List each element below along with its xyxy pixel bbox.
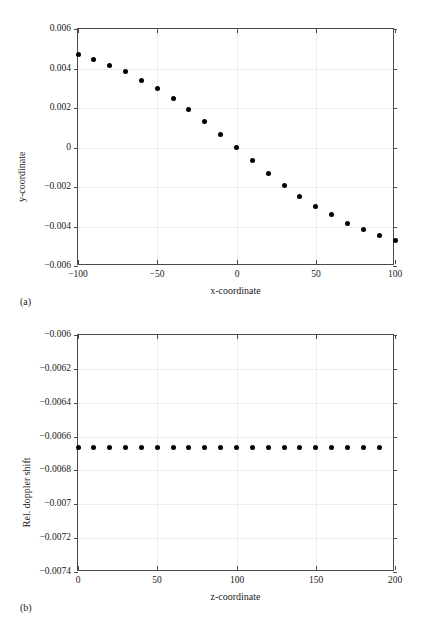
x-tick-label: 150 [309, 576, 323, 586]
y-tick-right [393, 227, 397, 228]
x-tick-bottom [316, 260, 317, 264]
y-tick-label: −0.0066 [40, 432, 71, 442]
y-tick-label: 0 [66, 143, 71, 153]
x-tick-label: −100 [68, 270, 88, 280]
gridline-horizontal [78, 187, 393, 188]
panel-caption-a: (a) [20, 296, 31, 307]
y-tick-left [74, 69, 78, 70]
gridline-vertical [157, 335, 158, 570]
y-tick-left [74, 437, 78, 438]
gridline-horizontal [78, 403, 393, 404]
y-tick-left [74, 470, 78, 471]
x-tick-bottom [237, 260, 238, 264]
y-tick-label: 0.006 [50, 24, 71, 34]
y-tick-left [74, 108, 78, 109]
data-point [361, 445, 366, 450]
y-tick-right [393, 69, 397, 70]
y-tick-label: −0.0062 [40, 364, 71, 374]
y-tick-left [74, 403, 78, 404]
data-point [139, 78, 144, 83]
x-tick-bottom [78, 260, 79, 264]
y-axis-title-a: y-coordinate [16, 152, 27, 203]
y-tick-right [393, 437, 397, 438]
y-tick-right [393, 187, 397, 188]
y-tick-label: −0.0074 [40, 567, 71, 577]
y-tick-right [393, 470, 397, 471]
gridline-horizontal [78, 538, 393, 539]
gridline-horizontal [78, 470, 393, 471]
gridline-vertical [237, 335, 238, 570]
data-point [218, 445, 223, 450]
gridline-horizontal [78, 227, 393, 228]
data-point [329, 445, 334, 450]
data-point [282, 445, 287, 450]
y-tick-label: −0.004 [44, 222, 71, 232]
y-tick-left [74, 369, 78, 370]
x-tick-top [237, 335, 238, 339]
plot-area-b: −0.006−0.0062−0.0064−0.0066−0.0068−0.007… [77, 334, 394, 571]
data-point [76, 52, 81, 57]
y-tick-label: −0.006 [44, 261, 71, 271]
y-tick-label: −0.0072 [40, 533, 71, 543]
data-point [123, 445, 128, 450]
x-tick-top [78, 335, 79, 339]
x-tick-bottom [157, 260, 158, 264]
x-tick-top [78, 29, 79, 33]
data-point [377, 233, 382, 238]
x-tick-bottom [395, 566, 396, 570]
x-tick-label: 0 [76, 576, 81, 586]
data-point [250, 445, 255, 450]
y-tick-left [74, 538, 78, 539]
data-point [393, 238, 398, 243]
x-tick-bottom [316, 566, 317, 570]
x-tick-top [395, 29, 396, 33]
data-point [266, 445, 271, 450]
y-tick-label: −0.002 [44, 182, 71, 192]
y-tick-label: −0.0068 [40, 465, 71, 475]
x-tick-label: 0 [235, 270, 240, 280]
data-point [282, 183, 287, 188]
gridline-horizontal [78, 108, 393, 109]
y-axis-title-b: Rel. doppler shift [21, 458, 32, 528]
y-tick-right [393, 504, 397, 505]
data-point [345, 445, 350, 450]
x-tick-bottom [78, 566, 79, 570]
x-tick-bottom [237, 566, 238, 570]
y-tick-label: −0.0064 [40, 398, 71, 408]
data-point [361, 227, 366, 232]
y-tick-label: −0.006 [44, 330, 71, 340]
data-point [107, 445, 112, 450]
y-tick-right [393, 369, 397, 370]
y-tick-left [74, 266, 78, 267]
x-tick-label: −50 [150, 270, 165, 280]
x-tick-top [237, 29, 238, 33]
gridline-horizontal [78, 369, 393, 370]
x-tick-label: 50 [311, 270, 321, 280]
panel-a: 0.0060.0040.0020−0.002−0.004−0.006 −100−… [0, 0, 421, 311]
data-point [234, 145, 239, 150]
data-point [266, 171, 271, 176]
data-point [218, 132, 223, 137]
y-tick-left [74, 227, 78, 228]
data-point [171, 445, 176, 450]
y-tick-right [393, 572, 397, 573]
gridline-vertical [157, 29, 158, 264]
panel-caption-b: (b) [20, 602, 32, 613]
x-tick-top [157, 29, 158, 33]
y-tick-right [393, 148, 397, 149]
y-tick-right [393, 108, 397, 109]
data-point [107, 63, 112, 68]
x-tick-label: 100 [388, 270, 402, 280]
x-tick-top [395, 335, 396, 339]
x-tick-bottom [157, 566, 158, 570]
y-tick-label: 0.004 [50, 64, 71, 74]
gridline-horizontal [78, 437, 393, 438]
y-tick-left [74, 187, 78, 188]
data-point [155, 445, 160, 450]
x-axis-title-b: z-coordinate [77, 591, 394, 602]
x-axis-title-a: x-coordinate [77, 285, 394, 296]
x-tick-top [316, 29, 317, 33]
data-point [345, 221, 350, 226]
y-tick-left [74, 148, 78, 149]
x-tick-label: 100 [230, 576, 244, 586]
